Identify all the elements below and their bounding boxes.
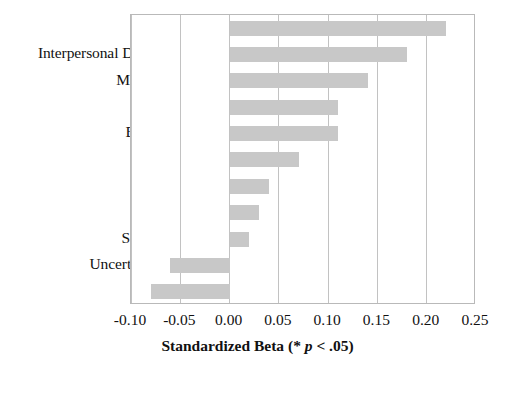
bar — [230, 21, 447, 36]
bar — [230, 47, 407, 62]
bar-row — [131, 15, 474, 41]
x-tick-label: 0.00 — [215, 310, 242, 330]
bar-chart: Self-Esteem*Interpersonal Distinctivenes… — [0, 0, 515, 393]
bar — [230, 73, 368, 88]
x-axis-title: Standardized Beta (* p < .05) — [0, 337, 515, 355]
x-tick-label: 0.15 — [363, 310, 390, 330]
bar-row — [131, 226, 474, 252]
bar — [170, 258, 229, 273]
bar-row — [131, 200, 474, 226]
bar — [230, 100, 338, 115]
x-tick-label: 0.20 — [412, 310, 439, 330]
bar-row — [131, 279, 474, 304]
bar — [151, 284, 230, 299]
x-axis-title-italic-p: p — [305, 337, 313, 354]
bar-row — [131, 173, 474, 199]
bar-row — [131, 94, 474, 120]
bar — [230, 152, 299, 167]
bar — [230, 232, 250, 247]
x-axis-tick-labels: -0.10-0.050.000.050.100.150.200.25 — [0, 310, 515, 334]
x-axis-title-prefix: Standardized Beta (* — [161, 337, 304, 354]
x-tick-label: -0.10 — [114, 310, 146, 330]
x-tick-label: 0.10 — [314, 310, 341, 330]
x-tick-label: 0.25 — [461, 310, 488, 330]
x-tick-label: -0.05 — [163, 310, 195, 330]
bar — [230, 179, 269, 194]
bar-row — [131, 252, 474, 278]
bar — [230, 205, 260, 220]
plot-area — [130, 14, 475, 304]
bar-row — [131, 68, 474, 94]
bar — [230, 126, 338, 141]
x-axis-title-suffix: < .05) — [313, 337, 354, 354]
bar-row — [131, 120, 474, 146]
bar-row — [131, 41, 474, 67]
bar-row — [131, 147, 474, 173]
x-tick-label: 0.05 — [264, 310, 291, 330]
